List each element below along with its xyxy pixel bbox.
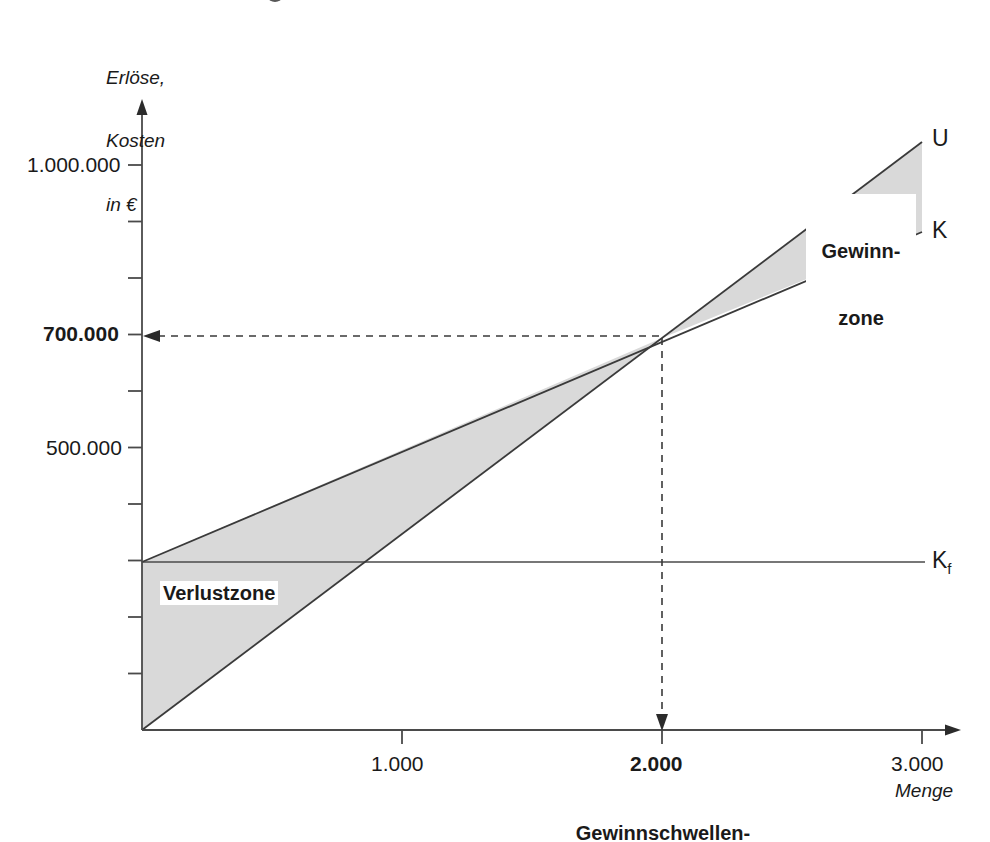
breakeven-caption: Gewinnschwellen- menge [527, 777, 799, 842]
x-axis-title: Menge [895, 780, 953, 801]
x-tick-label-2000: 2.000 [630, 752, 683, 776]
revenue-line [142, 142, 922, 730]
breakeven-caption-line-1: Gewinnschwellen- [527, 822, 799, 842]
x-axis-ticks [402, 730, 922, 744]
breakeven-horizontal-arrowhead [143, 330, 160, 342]
series-label-kf-main: K [932, 547, 947, 573]
y-tick-label-700000: 700.000 [43, 322, 119, 346]
y-tick-label-500000: 500.000 [46, 436, 122, 460]
zone-label-gewinnzone-line-2: zone [809, 307, 913, 329]
y-axis-title-line-2: Kosten [106, 130, 165, 151]
x-axis-arrowhead [945, 725, 961, 736]
y-axis-title-line-1: Erlöse, [106, 67, 165, 88]
x-tick-label-1000: 1.000 [371, 752, 424, 776]
series-label-k: K [932, 218, 947, 244]
breakeven-vertical-arrowhead [656, 714, 668, 731]
break-even-chart: Erlöse, Kosten in € 1.000.000 700.000 50… [0, 0, 990, 842]
total-cost-line [142, 232, 922, 562]
zone-label-gewinnzone: Gewinn- zone [806, 194, 916, 375]
series-label-kf-subscript: f [947, 560, 951, 577]
y-axis-title-line-3: in € [106, 194, 165, 215]
y-axis-title: Erlöse, Kosten in € [106, 24, 165, 258]
series-label-kf: Kf [932, 548, 952, 577]
x-tick-label-3000: 3.000 [891, 752, 944, 776]
y-tick-label-1000000: 1.000.000 [27, 153, 120, 177]
zone-label-verlustzone: Verlustzone [160, 581, 278, 605]
zone-label-gewinnzone-line-1: Gewinn- [809, 240, 913, 262]
series-label-u: U [932, 126, 949, 152]
